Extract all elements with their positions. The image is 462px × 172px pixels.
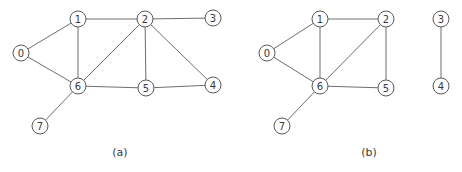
edge-0-6 bbox=[21, 53, 78, 86]
node-label: 3 bbox=[210, 13, 216, 24]
edge-2-5 bbox=[145, 19, 146, 88]
node-4: 4 bbox=[433, 78, 449, 94]
edge-2-4 bbox=[145, 19, 213, 85]
node-label: 6 bbox=[75, 81, 81, 92]
edge-6-5 bbox=[320, 86, 386, 88]
edge-6-5 bbox=[78, 86, 146, 88]
node-label: 5 bbox=[143, 83, 149, 94]
panel-a-graph: 01234567(a) bbox=[13, 10, 221, 159]
node-label: 0 bbox=[264, 48, 270, 59]
node-label: 2 bbox=[383, 14, 389, 25]
node-label: 1 bbox=[75, 14, 81, 25]
node-label: 6 bbox=[317, 81, 323, 92]
node-3: 3 bbox=[433, 11, 449, 27]
node-1: 1 bbox=[70, 11, 86, 27]
edge-5-4 bbox=[146, 85, 213, 88]
node-7: 7 bbox=[32, 118, 48, 134]
node-3: 3 bbox=[205, 10, 221, 26]
node-label: 7 bbox=[279, 121, 285, 132]
node-1: 1 bbox=[312, 11, 328, 27]
node-label: 5 bbox=[383, 83, 389, 94]
node-5: 5 bbox=[138, 80, 154, 96]
edge-0-1 bbox=[21, 19, 78, 53]
node-0: 0 bbox=[259, 45, 275, 61]
edge-2-3 bbox=[145, 18, 213, 19]
node-2: 2 bbox=[137, 11, 153, 27]
node-label: 4 bbox=[210, 80, 216, 91]
node-label: 4 bbox=[438, 81, 444, 92]
panel-caption: (a) bbox=[112, 146, 127, 159]
panel-b-graph: 01234567(b) bbox=[259, 11, 449, 159]
node-0: 0 bbox=[13, 45, 29, 61]
node-4: 4 bbox=[205, 77, 221, 93]
edge-0-1 bbox=[267, 19, 320, 53]
node-label: 2 bbox=[142, 14, 148, 25]
edge-2-6 bbox=[320, 19, 386, 86]
node-label: 0 bbox=[18, 48, 24, 59]
graph-diagram: 01234567(a) 01234567(b) bbox=[0, 0, 462, 172]
node-label: 1 bbox=[317, 14, 323, 25]
edge-2-6 bbox=[78, 19, 145, 86]
node-6: 6 bbox=[70, 78, 86, 94]
node-7: 7 bbox=[274, 118, 290, 134]
node-label: 3 bbox=[438, 14, 444, 25]
node-label: 7 bbox=[37, 121, 43, 132]
node-5: 5 bbox=[378, 80, 394, 96]
panel-caption: (b) bbox=[361, 146, 377, 159]
node-2: 2 bbox=[378, 11, 394, 27]
edge-0-6 bbox=[267, 53, 320, 86]
node-6: 6 bbox=[312, 78, 328, 94]
